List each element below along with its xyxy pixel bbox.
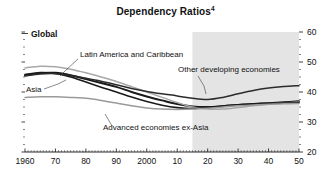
series-annotation-label: Asia bbox=[26, 85, 42, 94]
x-axis-tick-label: 10 bbox=[172, 156, 182, 166]
chart-plot-area: Global1960708090200010203040506050403020… bbox=[0, 0, 331, 176]
series-annotation-label: Latin America and Caribbean bbox=[80, 50, 183, 59]
y-axis-tick-label: 60 bbox=[307, 27, 317, 37]
x-axis-tick-label: 90 bbox=[112, 156, 122, 166]
x-axis-tick-label: 30 bbox=[233, 156, 243, 166]
y-axis-tick-label: 50 bbox=[307, 57, 317, 67]
panel-label-global: Global bbox=[31, 29, 57, 39]
dependency-ratios-chart: Dependency Ratios4 Global196070809020001… bbox=[0, 0, 331, 176]
x-axis-tick-label: 1960 bbox=[16, 156, 35, 166]
y-axis-tick-label: 30 bbox=[307, 117, 317, 127]
y-axis-tick-label: 20 bbox=[307, 147, 317, 157]
x-axis-tick-label: 80 bbox=[81, 156, 91, 166]
x-axis-tick-label: 40 bbox=[264, 156, 274, 166]
x-axis-tick-label: 20 bbox=[203, 156, 213, 166]
leader-line bbox=[44, 80, 66, 89]
y-axis-tick-label: 40 bbox=[307, 87, 317, 97]
x-axis-tick-label: 50 bbox=[294, 156, 304, 166]
series-annotation-label: Other developing economies bbox=[178, 65, 280, 74]
x-axis-tick-label: 2000 bbox=[137, 156, 156, 166]
x-axis-tick-label: 70 bbox=[51, 156, 61, 166]
series-annotation-label: Advanced economies ex-Asia bbox=[103, 123, 209, 132]
